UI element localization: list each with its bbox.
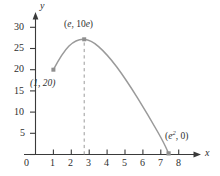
y-axis-label: y [40,1,44,11]
point-markers [51,37,170,155]
figure-chart: 30 25 20 15 10 5 0 1 2 3 4 5 6 7 8 y x (… [0,0,220,176]
marker-x-intercept [167,151,171,155]
marker-left-endpoint [51,68,55,72]
x-tick-label-8: 8 [176,158,181,168]
y-tick-label-10: 10 [14,107,24,117]
x-tick-label-1: 1 [50,158,55,168]
x-axis-ticks [53,150,178,155]
paren-close: ) [90,19,93,29]
origin-label: 0 [24,158,29,168]
y-tick-label-30: 30 [14,22,24,32]
y-axis-ticks [30,27,36,154]
x-tick-label-4: 4 [104,158,109,168]
x-axis-label: x [205,148,209,158]
x-tick-label-2: 2 [68,158,73,168]
y-tick-label-5: 5 [20,128,25,138]
point-label-x-intercept: (e2, 0) [165,130,188,142]
comma-ten: , 10 [71,19,85,29]
y-tick-label-20: 20 [14,64,24,74]
x-tick-label-3: 3 [86,158,91,168]
x-tick-label-6: 6 [140,158,145,168]
x-tick-label-5: 5 [122,158,127,168]
point-label-maximum: (e, 10e) [64,20,93,30]
point-label-left-endpoint: (1, 20) [30,79,55,89]
curve-path [53,39,168,154]
y-tick-label-15: 15 [14,86,24,96]
zero-paren: , 0) [176,131,189,141]
y-tick-label-25: 25 [14,43,24,53]
marker-maximum [82,37,86,41]
x-tick-label-7: 7 [158,158,163,168]
